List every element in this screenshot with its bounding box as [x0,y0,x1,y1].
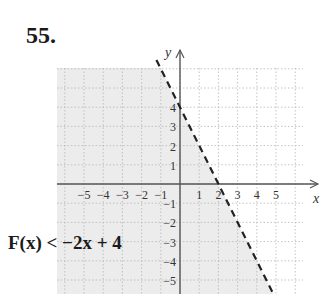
y-axis-label: y [163,45,172,60]
inequality-label: F(x) < −2x + 4 [8,232,122,254]
y-tick-label: −4 [163,255,176,269]
x-tick-label: 3 [235,188,241,202]
y-tick-label: −3 [163,236,176,250]
y-tick-label: −5 [163,274,176,288]
x-tick-label: −4 [97,188,110,202]
x-tick-label: 1 [196,188,202,202]
x-tick-label: 5 [273,188,279,202]
x-tick-label: −3 [116,188,129,202]
x-tick-label: −2 [135,188,148,202]
y-tick-label: 1 [170,159,176,173]
y-tick-label: 4 [170,101,176,115]
x-tick-label: −5 [78,188,91,202]
y-tick-label: −2 [163,216,176,230]
y-tick-label: 2 [170,140,176,154]
x-axis-label: x [312,191,320,206]
y-tick-label: 3 [170,120,176,134]
x-tick-label: 4 [254,188,260,202]
y-tick-label: −1 [163,197,176,211]
